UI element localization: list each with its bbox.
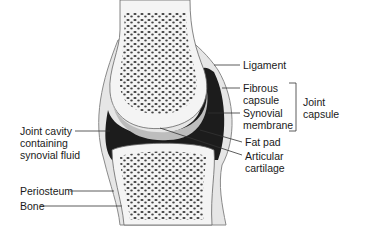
label-synovial-membrane: Synovial membrane: [243, 107, 293, 131]
label-fibrous-capsule: Fibrous capsule: [243, 82, 279, 106]
label-articular-cartilage: Articular cartilage: [245, 150, 285, 174]
lower-spongy-bone: [120, 152, 206, 221]
label-periosteum: Periosteum: [20, 185, 73, 197]
label-fat-pad: Fat pad: [245, 136, 281, 148]
label-bone: Bone: [20, 200, 45, 212]
label-joint-cavity: Joint cavity containing synovial fluid: [20, 125, 80, 161]
upper-spongy-bone: [120, 12, 197, 114]
label-joint-capsule: Joint capsule: [303, 96, 339, 120]
label-ligament: Ligament: [243, 59, 286, 71]
